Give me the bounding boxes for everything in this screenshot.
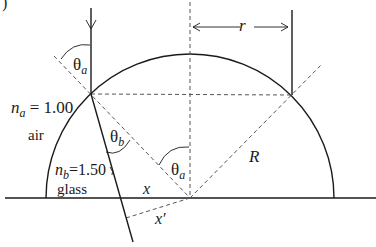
semicircular-lens-refraction-diagram: ) θa θb θa na = 1.00 air nb=1.50 glass r…	[0, 0, 376, 247]
air-label: air	[28, 127, 44, 143]
n-b-label: nb=1.50	[55, 161, 106, 182]
theta-b-label: θb	[110, 127, 124, 149]
glass-label: glass	[57, 181, 87, 197]
r-label: r	[239, 16, 246, 35]
figure-corner-label: )	[2, 0, 7, 12]
theta-a-center-label: θa	[171, 160, 185, 182]
n-a-label: na = 1.00	[11, 98, 73, 120]
R-label: R	[248, 147, 260, 166]
theta-a-top-label: θa	[73, 55, 87, 77]
right-normal-radius-dashed	[190, 64, 322, 198]
x-prime-label: x′	[154, 210, 166, 227]
horizontal-chord-dashed	[91, 94, 292, 95]
x-label: x	[142, 180, 150, 197]
